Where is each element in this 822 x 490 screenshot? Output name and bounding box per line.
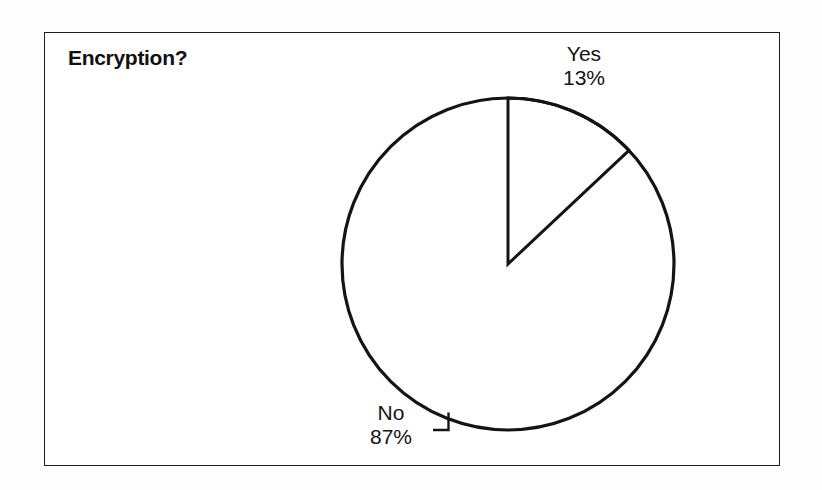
- pie-label-no: No 87%: [352, 401, 430, 449]
- pie-label-no-value: 87%: [352, 425, 430, 449]
- pie-label-yes-value: 13%: [540, 66, 628, 90]
- pie-label-yes-name: Yes: [540, 42, 628, 66]
- pie-label-no-name: No: [352, 401, 430, 425]
- pie-label-yes: Yes 13%: [540, 42, 628, 90]
- scanned-page: Encryption? Yes 13% No 87%: [0, 0, 822, 490]
